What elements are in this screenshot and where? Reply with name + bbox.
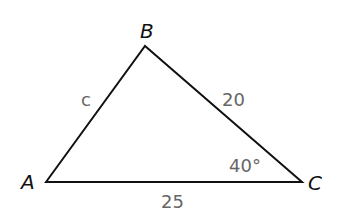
vertex-label-b: B [140, 19, 154, 43]
side-label-ac: 25 [161, 191, 184, 212]
vertex-label-c: C [308, 171, 322, 195]
triangle-abc [46, 46, 302, 182]
side-label-ab: c [81, 89, 91, 110]
angle-label-c: 40° [229, 155, 261, 176]
triangle-diagram: B A C c 20 25 40° [0, 0, 344, 221]
vertex-label-a: A [19, 170, 35, 194]
side-label-bc: 20 [222, 89, 245, 110]
